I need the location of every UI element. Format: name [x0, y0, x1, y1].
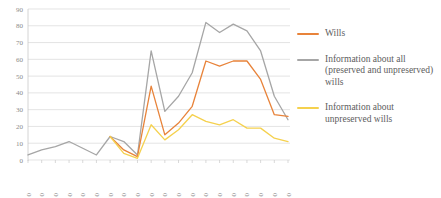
x-axis-tick-label: 1440	[202, 193, 210, 198]
y-axis-tick-label: 20	[16, 123, 24, 131]
chart-canvas: 0102030405060708090 13101320133013401350…	[0, 0, 295, 197]
x-axis-tick-label: 1340	[66, 193, 74, 198]
x-axis-tick-label: 1320	[38, 193, 46, 198]
x-axis-tick-marks	[28, 160, 288, 163]
legend-item-label: Information about unpreserved wills	[325, 102, 394, 125]
chart-screenshot: 0102030405060708090 13101320133013401350…	[0, 0, 441, 197]
x-axis-tick-label: 1490	[271, 193, 279, 198]
legend-item-label: Wills	[325, 28, 345, 40]
x-axis-tick-label: 1370	[107, 193, 115, 198]
y-axis-tick-label: 40	[16, 89, 24, 97]
x-axis-tick-label: 1430	[189, 193, 197, 198]
series-line	[110, 115, 288, 159]
x-axis-tick-label: 1390	[134, 193, 142, 198]
y-axis-tick-label: 90	[16, 6, 24, 14]
legend-item: Information about unpreserved wills	[297, 102, 441, 125]
series-line	[110, 61, 288, 157]
x-axis-tick-label: 1330	[52, 193, 60, 198]
y-axis-tick-label: 70	[16, 39, 24, 47]
y-axis-tick-label: 10	[16, 140, 24, 148]
legend-swatch-icon	[297, 107, 319, 109]
y-axis-tick-label: 0	[20, 157, 24, 165]
x-axis-tick-label: 1480	[257, 193, 265, 198]
x-axis-tick-label: 1380	[120, 193, 128, 198]
x-axis-tick-label: 1420	[175, 193, 183, 198]
y-axis-tick-label: 80	[16, 22, 24, 30]
x-axis-tick-label: 1400	[148, 193, 156, 198]
x-axis-tick-label: 1310	[25, 193, 33, 198]
x-axis-tick-label: 1450	[216, 193, 224, 198]
x-axis-tick-labels: 1310132013301340135013601370138013901400…	[25, 193, 293, 198]
x-axis-tick-label: 1460	[230, 193, 238, 198]
x-axis-tick-label: 1350	[79, 193, 87, 198]
line-chart: 0102030405060708090 13101320133013401350…	[0, 0, 295, 197]
x-axis-tick-label: 1470	[243, 193, 251, 198]
legend-item: Wills	[297, 28, 441, 40]
legend-swatch-icon	[297, 59, 319, 61]
x-axis-tick-label: 1500	[285, 193, 293, 198]
chart-legend: Wills Information about all (preserved a…	[297, 28, 441, 139]
y-axis-tick-label: 50	[16, 73, 24, 81]
x-axis-tick-label: 1410	[161, 193, 169, 198]
legend-item: Information about all (preserved and unp…	[297, 54, 441, 89]
legend-swatch-icon	[297, 33, 319, 35]
y-axis-tick-labels: 0102030405060708090	[16, 6, 24, 165]
x-axis-tick-label: 1360	[93, 193, 101, 198]
y-axis-tick-label: 60	[16, 56, 24, 64]
legend-item-label: Information about all (preserved and unp…	[325, 54, 433, 89]
y-axis-tick-label: 30	[16, 106, 24, 114]
